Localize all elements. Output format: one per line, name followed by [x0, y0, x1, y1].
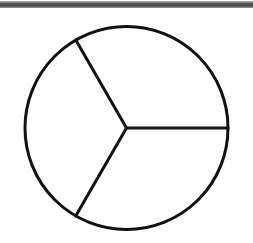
divided-circle-diagram: [0, 0, 253, 243]
